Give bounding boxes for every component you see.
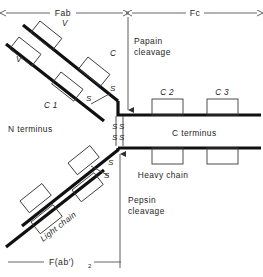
antibody-diagram-figure: Fab Fc Papain cleavage V C V C 1 S S [0, 0, 263, 277]
c-terminus-label: C terminus [172, 128, 217, 138]
lower-fc-heavy-chain: Heavy chain [118, 148, 261, 180]
pepsin-cleavage-label-line1: Pepsin [128, 195, 156, 205]
lower-interchain-s-bottom: S [104, 171, 110, 180]
antibody-structure-diagram: Fab Fc Papain cleavage V C V C 1 S S [0, 0, 263, 277]
heavy-chain-label: Heavy chain [138, 170, 189, 180]
upper-heavy-c-domain-label: C [110, 49, 116, 58]
upper-interchain-s-left: S [86, 94, 92, 103]
hinge-ss-bottom-left: S [112, 133, 118, 142]
fab-label: Fab [55, 8, 71, 18]
upper-fc-heavy-chain: C 2 C 3 [118, 88, 261, 115]
upper-light-c1-domain-label: C 1 [44, 101, 58, 110]
n-terminus-label: N terminus [8, 124, 53, 134]
fc-c2-domain-box [152, 99, 183, 115]
lower-interchain-s-top: S [108, 158, 114, 167]
upper-interchain-s-right: S [110, 84, 116, 93]
lower-fc-c2-domain-box [152, 148, 183, 164]
lower-light-chain-arm: Light chain [6, 170, 104, 247]
fc-c3-domain-box [207, 99, 238, 115]
hinge-ss-bottom-right: S [119, 133, 125, 142]
lower-light-c1-domain-box [72, 173, 103, 202]
hinge-disulfide-bonds: S S S S [112, 116, 125, 146]
upper-light-c1-domain-box [52, 72, 83, 101]
pepsin-cleavage-label-line2: cleavage [128, 206, 165, 216]
upper-fc-heavy-chain-line [118, 101, 261, 115]
fc-bracket: Fc [132, 8, 257, 18]
fc-label: Fc [190, 8, 201, 18]
upper-heavy-chain-arm: V C [23, 19, 118, 101]
fab2-label-subscript: 2 [88, 263, 92, 269]
papain-cleavage-label-line1: Papain [134, 36, 162, 46]
fc-c2-domain-label: C 2 [160, 88, 174, 97]
upper-heavy-chain-line [23, 25, 118, 101]
upper-heavy-v-domain-label: V [62, 19, 69, 28]
hinge-ss-top-left: S [112, 122, 118, 131]
hinge-ss-top-right: S [119, 122, 125, 131]
fab2-bracket: F(ab′) 2 [8, 257, 121, 269]
fc-c3-domain-label: C 3 [215, 88, 229, 97]
fab-bracket: Fab [6, 8, 123, 18]
fab2-label: F(ab′) [49, 257, 74, 267]
lower-light-chain-line [6, 170, 104, 247]
lower-fc-c3-domain-box [207, 148, 238, 164]
papain-cleavage-label-line2: cleavage [134, 47, 171, 57]
upper-interchain-disulfide-link [91, 93, 111, 104]
